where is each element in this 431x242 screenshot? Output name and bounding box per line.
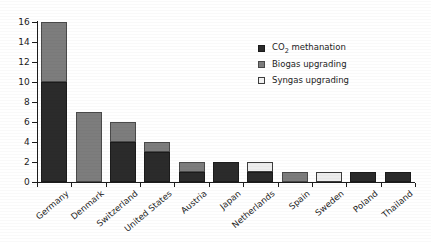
x-tick-mark: [140, 183, 141, 187]
legend-swatch-co2: [258, 45, 265, 52]
x-tick-mark: [346, 183, 347, 187]
y-tick-label-wrap: 12: [0, 58, 30, 67]
y-tick-label: 0: [4, 178, 30, 187]
x-tick-label: Poland: [352, 189, 380, 215]
bar-japan: [213, 162, 239, 182]
y-tick-label: 14: [4, 38, 30, 47]
bar-segment-syngas-upgrading: [316, 172, 342, 182]
bar-denmark: [76, 112, 102, 182]
bar-segment-co2-methanation: [144, 152, 170, 182]
stacked-bar-chart: 0246810121416 GermanyDenmarkSwitzerlandU…: [0, 0, 431, 242]
y-tick-label-wrap: 4: [0, 138, 30, 147]
y-tick-label-wrap: 2: [0, 158, 30, 167]
y-tick-label: 10: [4, 78, 30, 87]
x-tick-label: Thailand: [380, 189, 414, 220]
legend-item: Syngas upgrading: [258, 76, 349, 85]
x-axis-line: [37, 182, 415, 183]
x-tick-mark: [37, 183, 38, 187]
legend-label: CO2 methanation: [272, 43, 346, 54]
bar-segment-biogas-upgrading: [282, 172, 308, 182]
chart-legend: CO2 methanationBiogas upgradingSyngas up…: [258, 44, 349, 85]
y-tick-label-wrap: 6: [0, 118, 30, 127]
bar-switzerland: [110, 122, 136, 182]
y-tick-label: 2: [4, 158, 30, 167]
legend-label: Syngas upgrading: [272, 76, 349, 85]
x-tick-mark: [278, 183, 279, 187]
bar-segment-co2-methanation: [110, 142, 136, 182]
x-tick-label: Japan: [218, 189, 242, 211]
x-tick-mark: [71, 183, 72, 187]
y-tick-label-wrap: 16: [0, 18, 30, 27]
legend-item: Biogas upgrading: [258, 60, 349, 69]
x-tick-mark: [209, 183, 210, 187]
bar-segment-biogas-upgrading: [179, 162, 205, 172]
bar-poland: [350, 172, 376, 182]
y-tick-label: 6: [4, 118, 30, 127]
x-tick-mark: [243, 183, 244, 187]
legend-item: CO2 methanation: [258, 44, 349, 53]
bar-segment-biogas-upgrading: [41, 22, 67, 82]
bar-sweden: [316, 172, 342, 182]
x-tick-label: Austria: [179, 189, 208, 216]
x-tick-label: Germany: [35, 189, 71, 221]
bar-segment-co2-methanation: [385, 172, 411, 182]
bar-segment-co2-methanation: [179, 172, 205, 182]
bar-segment-co2-methanation: [247, 172, 273, 182]
x-tick-label: Sweden: [314, 189, 346, 218]
y-tick-label: 12: [4, 58, 30, 67]
bar-united-states: [144, 142, 170, 182]
legend-swatch-syngas: [258, 77, 265, 84]
y-tick-label-wrap: 8: [0, 98, 30, 107]
bar-segment-biogas-upgrading: [76, 112, 102, 182]
bar-segment-co2-methanation: [41, 82, 67, 182]
x-tick-mark: [106, 183, 107, 187]
y-tick-label-wrap: 14: [0, 38, 30, 47]
bar-segment-syngas-upgrading: [247, 162, 273, 172]
bar-segment-biogas-upgrading: [144, 142, 170, 152]
x-tick-mark: [312, 183, 313, 187]
legend-label: Biogas upgrading: [272, 60, 347, 69]
y-tick-label-wrap: 10: [0, 78, 30, 87]
y-tick-label-wrap: 0: [0, 178, 30, 187]
bar-netherlands: [247, 162, 273, 182]
bar-segment-biogas-upgrading: [110, 122, 136, 142]
legend-swatch-biogas: [258, 61, 265, 68]
bar-segment-co2-methanation: [350, 172, 376, 182]
y-tick-label: 8: [4, 98, 30, 107]
bar-spain: [282, 172, 308, 182]
x-tick-label: Spain: [287, 189, 311, 211]
y-tick-label: 4: [4, 138, 30, 147]
x-tick-mark: [174, 183, 175, 187]
bar-germany: [41, 22, 67, 182]
bars-layer: [37, 22, 415, 182]
y-tick-label: 16: [4, 18, 30, 27]
x-tick-mark: [381, 183, 382, 187]
x-tick-mark: [415, 183, 416, 187]
bar-thailand: [385, 172, 411, 182]
bar-segment-co2-methanation: [213, 162, 239, 182]
bar-austria: [179, 162, 205, 182]
